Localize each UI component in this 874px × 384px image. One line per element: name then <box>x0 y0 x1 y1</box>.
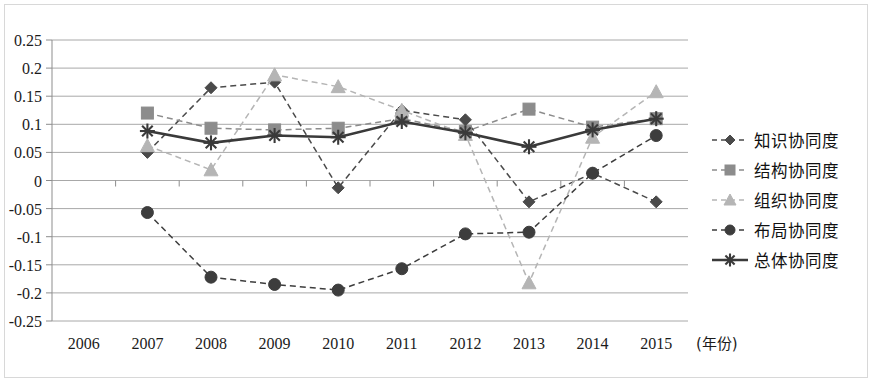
chart-series <box>140 68 663 289</box>
x-axis-tick-label: 2007 <box>131 335 163 352</box>
marker-circle <box>269 278 281 290</box>
legend-label: 知识协同度 <box>754 132 839 151</box>
x-axis-group: 2006200720082009201020112012201320142015… <box>68 335 738 353</box>
legend-item[interactable]: 知识协同度 <box>712 132 839 151</box>
y-axis-tick-label: 0.2 <box>22 60 42 77</box>
y-axis-tick-label: -0.1 <box>17 229 42 246</box>
marker-asterisk <box>331 130 346 145</box>
marker-asterisk <box>522 139 537 154</box>
legend-item[interactable]: 结构协同度 <box>712 162 839 181</box>
marker-circle <box>332 284 344 296</box>
marker-asterisk <box>394 114 409 129</box>
x-axis-tick-label: 2014 <box>577 335 609 352</box>
marker-square <box>725 165 735 175</box>
chart-canvas: 0.250.20.150.10.050-0.05-0.1-0.15-0.2-0.… <box>0 0 874 384</box>
zero-axis-group <box>116 181 625 187</box>
legend-label: 结构协同度 <box>754 162 839 181</box>
marker-asterisk <box>204 135 219 150</box>
x-axis-tick-label: 2013 <box>513 335 545 352</box>
marker-circle <box>650 130 662 142</box>
marker-square <box>523 103 535 115</box>
marker-triangle <box>649 85 663 98</box>
marker-triangle <box>522 276 536 289</box>
marker-circle <box>205 271 217 283</box>
x-axis-tick-label: 2012 <box>449 335 481 352</box>
grid-group: 0.250.20.150.10.050-0.05-0.1-0.15-0.2-0.… <box>9 32 688 330</box>
marker-triangle <box>204 163 218 176</box>
marker-square <box>205 122 217 134</box>
marker-circle <box>459 228 471 240</box>
marker-asterisk <box>140 124 155 139</box>
marker-triangle <box>268 68 282 81</box>
legend-label: 组织协同度 <box>754 192 839 211</box>
y-axis-tick-label: -0.25 <box>9 313 42 330</box>
marker-circle <box>141 207 153 219</box>
marker-circle <box>725 225 735 235</box>
marker-asterisk <box>458 125 473 140</box>
x-axis-tick-label: 2015 <box>640 335 672 352</box>
marker-circle <box>587 167 599 179</box>
y-axis-tick-label: 0.05 <box>14 144 42 161</box>
y-axis-tick-label: 0.25 <box>14 32 42 49</box>
marker-asterisk <box>724 254 737 267</box>
legend-label: 布局协同度 <box>754 222 839 241</box>
marker-asterisk <box>649 111 664 126</box>
chart-figure: 0.250.20.150.10.050-0.05-0.1-0.15-0.2-0.… <box>0 0 874 384</box>
x-axis-tick-label: 2006 <box>68 335 100 352</box>
y-axis-tick-label: 0.15 <box>14 88 42 105</box>
legend-item[interactable]: 组织协同度 <box>712 192 839 211</box>
legend-item[interactable]: 布局协同度 <box>712 222 839 241</box>
chart-series <box>140 111 664 154</box>
x-axis-tick-label: 2011 <box>386 335 417 352</box>
y-axis-tick-label: -0.05 <box>9 201 42 218</box>
chart-series <box>141 130 662 297</box>
y-axis-tick-label: 0 <box>34 173 42 190</box>
y-axis-tick-label: -0.15 <box>9 257 42 274</box>
y-axis-tick-label: 0.1 <box>22 116 42 133</box>
legend-label: 总体协同度 <box>754 252 839 271</box>
y-axis-tick-label: -0.2 <box>17 285 42 302</box>
marker-diamond <box>650 196 662 208</box>
marker-circle <box>523 226 535 238</box>
marker-diamond <box>725 135 735 145</box>
marker-asterisk <box>267 128 282 143</box>
x-axis-title: (年份) <box>696 335 738 353</box>
x-axis-tick-label: 2008 <box>195 335 227 352</box>
marker-asterisk <box>585 122 600 137</box>
marker-triangle <box>140 139 154 152</box>
x-axis-tick-label: 2010 <box>322 335 354 352</box>
x-axis-tick-label: 2009 <box>259 335 291 352</box>
marker-circle <box>396 263 408 275</box>
marker-square <box>141 107 153 119</box>
chart-legend: 知识协同度结构协同度组织协同度布局协同度总体协同度 <box>712 132 839 271</box>
legend-item[interactable]: 总体协同度 <box>712 252 839 271</box>
